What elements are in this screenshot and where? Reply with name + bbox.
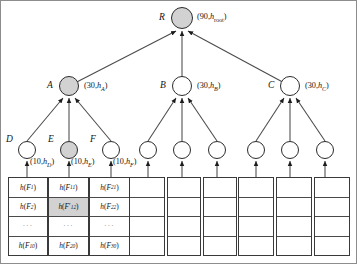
- table-cell[interactable]: [168, 198, 200, 218]
- node-d-name: D: [6, 135, 13, 145]
- table-group-1: h(F1)h(F2)···h(F10) h(F11)h(F′12)···h(F2…: [8, 177, 130, 256]
- table-cell[interactable]: ···: [49, 217, 88, 237]
- node-root-pair: (90,hroot): [197, 13, 226, 23]
- node-b-pair: (30,hB): [197, 82, 220, 92]
- node-b[interactable]: [172, 76, 192, 96]
- table-column-1[interactable]: h(F1)h(F2)···h(F10): [8, 177, 48, 256]
- table-cell[interactable]: [168, 217, 200, 237]
- table-cell[interactable]: h(F1): [9, 178, 47, 198]
- table-cell[interactable]: h(F20): [49, 237, 88, 256]
- table-column-4[interactable]: [129, 177, 165, 256]
- table-cell[interactable]: [315, 237, 349, 256]
- node-e-pair: (10,hE): [71, 158, 94, 168]
- table-column-3[interactable]: h(F21)h(F22)···h(F30): [89, 177, 130, 256]
- node-leaf-7[interactable]: [247, 141, 265, 159]
- table-cell[interactable]: [130, 198, 164, 218]
- table-group-3: [238, 177, 350, 256]
- table-cell[interactable]: [315, 198, 349, 218]
- table-column-2[interactable]: h(F11)h(F′12)···h(F20): [48, 177, 89, 256]
- node-a-name: A: [47, 81, 53, 91]
- table-cell[interactable]: h(F30): [90, 237, 129, 256]
- node-c-name: C: [268, 81, 274, 91]
- node-b-name: B: [160, 81, 166, 91]
- table-cell[interactable]: [204, 198, 236, 218]
- table-cell[interactable]: ···: [90, 217, 129, 237]
- table-cell[interactable]: [239, 178, 273, 198]
- node-f-name: F: [90, 135, 96, 145]
- node-root-name: R: [159, 13, 165, 23]
- table-cell[interactable]: [204, 178, 236, 198]
- table-column-5[interactable]: [167, 177, 201, 256]
- node-c[interactable]: [280, 76, 300, 96]
- table-cell[interactable]: h(F′12): [49, 198, 88, 218]
- table-column-8[interactable]: [276, 177, 312, 256]
- node-a[interactable]: [59, 76, 79, 96]
- table-cell[interactable]: [277, 198, 311, 218]
- table-cell[interactable]: h(F22): [90, 198, 129, 218]
- table-cell[interactable]: [315, 178, 349, 198]
- node-leaf-4[interactable]: [139, 141, 157, 159]
- table-cell[interactable]: [315, 217, 349, 237]
- table-cell[interactable]: [239, 198, 273, 218]
- table-cell[interactable]: [130, 237, 164, 256]
- table-column-7[interactable]: [238, 177, 274, 256]
- table-cell[interactable]: [130, 217, 164, 237]
- table-cell[interactable]: [277, 178, 311, 198]
- table-cell[interactable]: [277, 237, 311, 256]
- table-column-6[interactable]: [203, 177, 237, 256]
- node-a-pair: (30,hA): [84, 82, 107, 92]
- diagram-canvas: R (90,hroot) A (30,hA) B (30,hB) C (30,h…: [0, 0, 358, 265]
- table-group-2: [129, 177, 237, 256]
- table-cell[interactable]: [239, 237, 273, 256]
- table-cell[interactable]: h(F10): [9, 237, 47, 256]
- table-cell[interactable]: [168, 178, 200, 198]
- table-cell[interactable]: h(F21): [90, 178, 129, 198]
- table-cell[interactable]: [204, 237, 236, 256]
- table-cell[interactable]: [239, 217, 273, 237]
- node-f-pair: (10,hF): [113, 158, 136, 168]
- table-cell[interactable]: [168, 237, 200, 256]
- table-cell[interactable]: [204, 217, 236, 237]
- node-c-pair: (30,hC): [305, 82, 329, 92]
- node-leaf-8[interactable]: [281, 141, 299, 159]
- node-leaf-5[interactable]: [173, 141, 191, 159]
- table-cell[interactable]: [277, 217, 311, 237]
- table-cell[interactable]: ···: [9, 217, 47, 237]
- table-column-9[interactable]: [314, 177, 350, 256]
- table-cell[interactable]: h(F11): [49, 178, 88, 198]
- node-leaf-6[interactable]: [208, 141, 226, 159]
- node-d-pair: (10,hD): [30, 158, 54, 168]
- node-e-name: E: [48, 135, 54, 145]
- table-cell[interactable]: [130, 178, 164, 198]
- node-root[interactable]: [171, 7, 193, 29]
- table-cell[interactable]: h(F2): [9, 198, 47, 218]
- node-leaf-9[interactable]: [316, 141, 334, 159]
